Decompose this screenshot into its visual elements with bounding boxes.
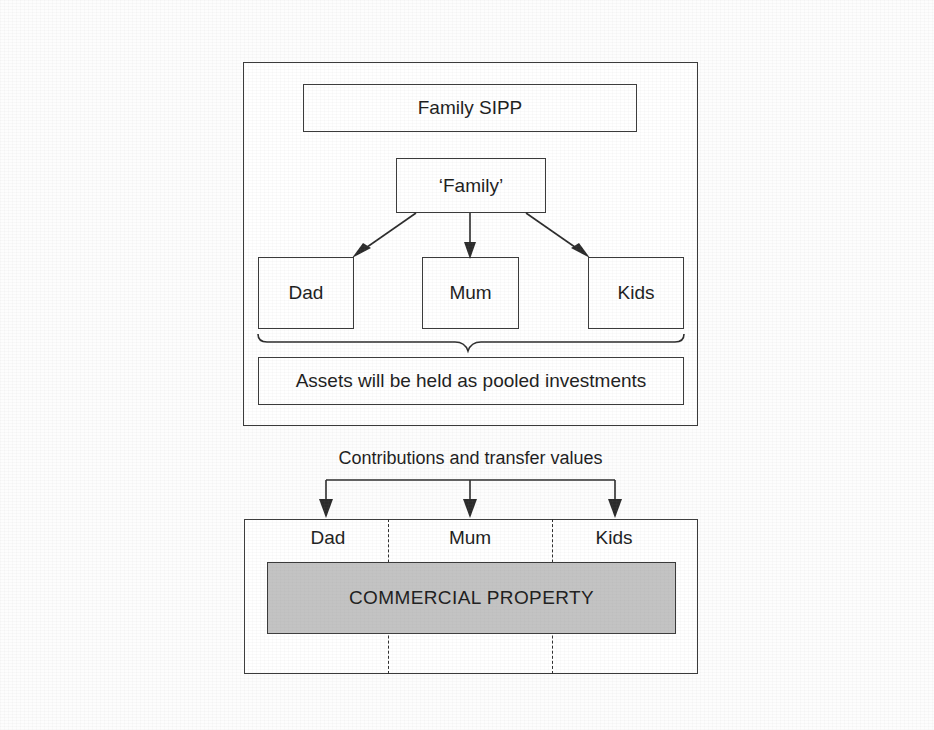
commercial-property-block: COMMERCIAL PROPERTY (267, 562, 676, 634)
member-label-dad: Dad (289, 282, 324, 304)
member-box-dad: Dad (258, 257, 354, 329)
column-label-mum-text: Mum (449, 527, 491, 548)
family-box: ‘Family’ (396, 158, 546, 213)
pooled-investments-box: Assets will be held as pooled investment… (258, 357, 684, 405)
column-label-mum: Mum (430, 527, 510, 549)
contributions-arrow-mum (463, 499, 477, 518)
column-label-dad: Dad (288, 527, 368, 549)
family-sipp-label: Family SIPP (418, 97, 523, 119)
pooled-investments-label: Assets will be held as pooled investment… (296, 370, 647, 392)
column-label-kids-text: Kids (596, 527, 633, 548)
scanned-page: Family SIPP ‘Family’ Dad Mum Kids Assets… (0, 0, 934, 730)
member-box-kids: Kids (588, 257, 684, 329)
member-label-mum: Mum (449, 282, 491, 304)
commercial-property-label: COMMERCIAL PROPERTY (349, 587, 594, 609)
family-label: ‘Family’ (439, 175, 503, 197)
column-label-dad-text: Dad (311, 527, 346, 548)
contributions-arrow-kids (608, 499, 622, 518)
family-sipp-box: Family SIPP (303, 84, 637, 132)
column-label-kids: Kids (574, 527, 654, 549)
contributions-caption-label: Contributions and transfer values (338, 448, 602, 468)
member-label-kids: Kids (618, 282, 655, 304)
contributions-caption: Contributions and transfer values (243, 448, 698, 469)
diagram-canvas: Family SIPP ‘Family’ Dad Mum Kids Assets… (0, 0, 934, 730)
contributions-connector (319, 480, 622, 518)
contributions-arrow-dad (319, 499, 333, 518)
member-box-mum: Mum (422, 257, 519, 329)
